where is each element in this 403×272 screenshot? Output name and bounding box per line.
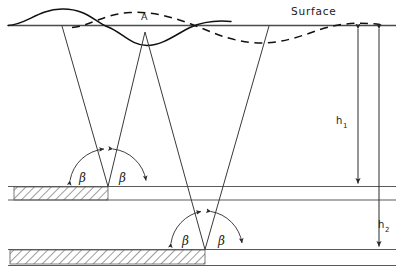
beta-label-1: β (78, 171, 86, 185)
h1-subscript: 1 (343, 122, 347, 130)
beta-label-4: β (217, 234, 225, 248)
beta-arc-4 (211, 212, 242, 244)
diagram-canvas: Surface A β β β β h 1 h 2 (0, 0, 403, 272)
beta-arc-2 (113, 149, 146, 181)
h2-subscript: 2 (385, 226, 389, 234)
h2-label: h (378, 219, 384, 230)
ray-reflected-deep (205, 26, 269, 250)
layer2-hatch-fill (10, 250, 205, 264)
ray-incident-deep (145, 32, 205, 250)
h1-label: h (336, 115, 342, 126)
surface-label: Surface (291, 5, 337, 17)
ray-reflected-shallow (108, 32, 145, 187)
layer1-hatch-fill (14, 187, 108, 200)
beta-label-2: β (118, 171, 126, 185)
wave-reflection-diagram: Surface A β β β β h 1 h 2 (0, 0, 403, 272)
solid-wave-curve (8, 9, 231, 46)
ray-incident-shallow (62, 26, 108, 187)
beta-label-3: β (181, 234, 189, 248)
point-a-label: A (141, 11, 148, 22)
